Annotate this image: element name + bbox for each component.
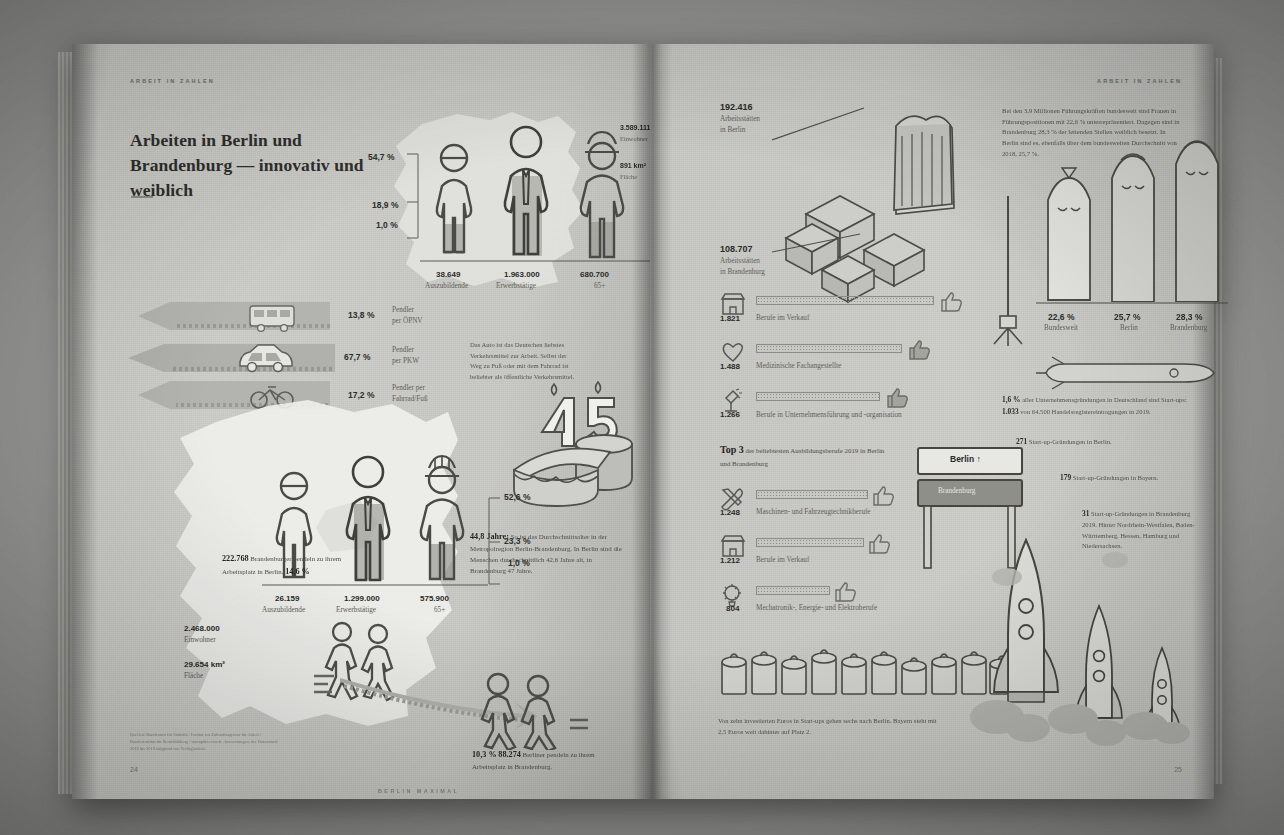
smoke-cloud — [1086, 720, 1126, 746]
walking-people-berlin — [472, 672, 592, 754]
berlin-figure-1-number: 1.963.000 — [504, 270, 540, 279]
women-bar-brandenburg — [1170, 130, 1224, 306]
berlin-job-0-bar — [756, 296, 934, 305]
berlin-inhabitants-label: Einwohner — [620, 135, 648, 142]
brandenburg-job-0-label: Maschinen- und Fahrzeugtechnikberufe — [756, 508, 871, 516]
brandenburg-job-2-label: Mechatronik-, Energie- und Elektroberufe — [756, 604, 877, 612]
brandenburg-figure-2-label: 65+ — [434, 606, 445, 614]
brandenburg-share-2: 23,3 % — [504, 536, 530, 546]
brandenburg-area-label: Fläche — [184, 672, 203, 680]
rocket-sideways-illustration — [1034, 356, 1222, 394]
brandenburg-job-0-number: 1.248 — [720, 508, 740, 517]
top3-heading: Top 3 der beliebtesten Ausbildungsberufe… — [720, 442, 888, 469]
commuter-2-pct: 17,2 % — [348, 390, 374, 400]
berlin-share-2: 18,9 % — [372, 200, 398, 210]
startup-intro: 1,6 % aller Unternehmensgründungen in De… — [1002, 394, 1198, 418]
pictogram-auszubildende-berlin — [428, 136, 480, 260]
thumbs-up-icon — [872, 485, 894, 507]
sign-top-label: Berlin ↑ — [950, 454, 981, 464]
commuter-1-label-1: Pendler — [392, 346, 414, 354]
startup-0-number: 271 — [1016, 437, 1027, 446]
commute-out-block: 10,3 % 88.274 Berliner pendeln zu ihrem … — [472, 748, 622, 772]
commuter-arrow-oepnv — [130, 296, 330, 340]
berlin-figure-2-number: 680.700 — [580, 270, 609, 279]
women-pct-berlin: 25,7 % — [1114, 312, 1140, 322]
folio-right: 25 — [1174, 766, 1182, 773]
startup-2-label: Start-up-Gründungen in Brandenburg 2019.… — [1082, 510, 1195, 549]
women-label-berlin: Berlin — [1120, 324, 1138, 332]
commuter-0-label-2: per ÖPNV — [392, 317, 423, 325]
commuter-2-label-2: Fahrrad/Fuß — [392, 395, 428, 403]
thumbs-up-icon — [940, 291, 962, 313]
women-label-brandenburg: Brandenburg — [1170, 324, 1207, 332]
brandenburg-inhabitants-value: 2.468.000 — [184, 624, 220, 633]
euro-coins-row — [718, 646, 1018, 704]
thumbs-up-icon — [908, 339, 930, 361]
thumbs-up-icon — [886, 387, 908, 409]
worksite-1-label-1: Arbeitsstätten — [720, 257, 760, 265]
heart-icon — [720, 340, 746, 364]
floor-lamp-icon — [988, 192, 1030, 362]
pictogram-erwerbstaetige-berlin — [496, 120, 556, 262]
worksite-1-number: 108.707 — [720, 244, 753, 254]
title-rule — [131, 196, 153, 198]
smoke-cloud — [1154, 722, 1190, 744]
worksite-0-label-1: Arbeitsstätten — [720, 115, 760, 123]
smoke-cloud — [992, 568, 1022, 586]
top3-heading-rest: der beliebtesten Ausbildungsberufe 2019 … — [720, 447, 884, 467]
brandenburg-figure-1-number: 1.299.000 — [344, 594, 380, 603]
startup-intro-bold-2: 1.033 — [1002, 407, 1019, 416]
left-page: ARBEIT IN ZAHLEN Arbeiten in Berlin und … — [72, 44, 650, 799]
smoke-cloud — [1006, 714, 1050, 742]
berlin-job-0-label: Berufe im Verkauf — [756, 314, 809, 322]
brandenburg-figure-2-number: 575.900 — [420, 594, 449, 603]
berlin-area-label: Fläche — [620, 173, 637, 180]
brandenburg-inhabitants-label: Einwohner — [184, 636, 216, 644]
berlin-area-value: 891 km² — [620, 162, 646, 169]
pictogram-65plus-berlin — [572, 126, 630, 262]
thumbs-up-icon — [868, 533, 890, 555]
women-bar-berlin — [1106, 144, 1160, 306]
rocket-large-berlin — [986, 536, 1066, 722]
brandenburg-share-1: 52,6 % — [504, 492, 530, 502]
euro-note: Von zehn investierten Euros in Start-ups… — [718, 716, 942, 737]
birthday-cake-illustration — [492, 374, 652, 528]
source-note: Quellen: Bundesamt für Statistik / Insti… — [130, 732, 280, 752]
women-pct-bundesweit: 22,6 % — [1048, 312, 1074, 322]
sign-bottom-label: Brandenburg — [938, 487, 975, 495]
startup-2: 31 Start-up-Gründungen in Brandenburg 20… — [1082, 508, 1206, 552]
berlin-figure-1-label: Erwerbstätige — [496, 282, 536, 290]
commuter-0-pct: 13,8 % — [348, 310, 374, 320]
berlin-share-3: 1,0 % — [376, 220, 398, 230]
startup-0-label: Start-up-Gründungen in Berlin. — [1029, 438, 1112, 445]
women-leadership-chart — [988, 192, 1030, 366]
runhead-left: ARBEIT IN ZAHLEN — [130, 78, 215, 84]
smoke-cloud — [1102, 552, 1128, 568]
top3-heading-bold: Top 3 — [720, 444, 744, 455]
brandenburg-job-1-label: Berufe im Verkauf — [756, 556, 809, 564]
page-title: Arbeiten in Berlin und Brandenburg — inn… — [130, 128, 370, 203]
brandenburg-job-1-number: 1.212 — [720, 556, 740, 565]
women-label-bundesweit: Bundesweit — [1044, 324, 1078, 332]
right-page: ARBEIT IN ZAHLEN — [650, 44, 1214, 799]
berlin-job-0-number: 1.821 — [720, 314, 740, 323]
magazine-spread: ARBEIT IN ZAHLEN Arbeiten in Berlin und … — [72, 44, 1214, 799]
commute-out-pct: 10,3 % — [472, 750, 497, 759]
startup-0: 271 Start-up-Gründungen in Berlin. — [1016, 436, 1196, 448]
berlin-job-1-bar — [756, 344, 902, 353]
berlin-figure-0-label: Auszubildende — [425, 282, 468, 290]
brandenburg-job-0-bar — [756, 490, 868, 499]
startup-2-number: 31 — [1082, 509, 1089, 518]
brandenburg-figure-1-label: Erwerbstätige — [336, 606, 376, 614]
commute-in-block: 222.768 Brandenburger pendeln zu ihrem A… — [222, 552, 370, 578]
runhead-right: ARBEIT IN ZAHLEN — [1097, 78, 1182, 84]
berlin-job-1-number: 1.488 — [720, 362, 740, 371]
commuter-1-label-2: per PKW — [392, 357, 419, 365]
candle-flames — [552, 382, 601, 395]
brandenburg-job-2-number: 804 — [726, 604, 739, 613]
worksite-0-leader-line — [772, 106, 868, 146]
commute-in-number: 222.768 — [222, 554, 249, 563]
brandenburg-job-2-bar — [756, 586, 830, 595]
thumbs-up-icon — [834, 581, 856, 603]
startup-1-label: Start-up-Gründungen in Bayern. — [1073, 474, 1159, 481]
